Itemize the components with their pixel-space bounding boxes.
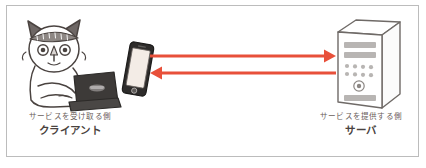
server-bottom-bar [344,95,376,101]
server-illustration [332,18,406,114]
server-caption-top: サービスを提供する側 [297,113,425,122]
request-arrow [150,50,336,63]
cat-with-laptop-icon [14,14,126,112]
server-tower-icon [332,18,406,114]
client-caption-top: サービスを受け取る側 [4,113,136,122]
figure-root: サービスを受け取る側 クライアント サービスを提供する側 サーバ [0,0,426,168]
client-illustration [14,14,126,112]
arrows-svg [148,48,338,84]
server-caption: サービスを提供する側 サーバ [297,113,425,136]
client-caption-label: クライアント [4,125,136,137]
server-caption-label: サーバ [297,125,425,137]
arrow-group [148,48,338,84]
laptop-icon [69,72,121,111]
response-arrow [150,67,336,80]
client-caption: サービスを受け取る側 クライアント [4,113,136,136]
